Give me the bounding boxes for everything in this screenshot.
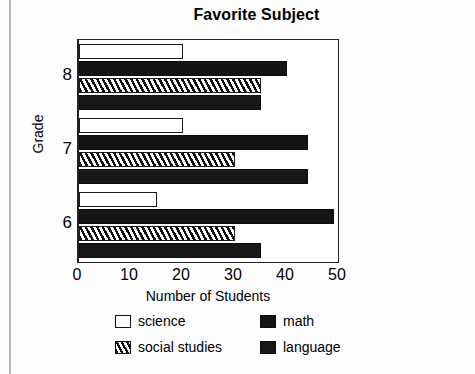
legend-swatch-language-icon — [260, 341, 276, 354]
legend-item-science[interactable]: science — [115, 313, 185, 329]
legend-item-math[interactable]: math — [260, 313, 314, 329]
bar-group-grade-6 — [79, 188, 338, 262]
bar-math-grade-7 — [79, 135, 308, 150]
legend-swatch-math-icon — [260, 315, 276, 328]
legend-item-language[interactable]: language — [260, 339, 341, 355]
bar-group-grade-8 — [79, 40, 338, 114]
bar-language-grade-6 — [79, 243, 261, 258]
legend-label: social studies — [138, 339, 222, 355]
bar-social-studies-grade-7 — [79, 152, 235, 167]
bar-math-grade-6 — [79, 209, 334, 224]
bar-science-grade-6 — [79, 192, 157, 207]
bar-social-studies-grade-6 — [79, 226, 235, 241]
legend-swatch-science-icon — [115, 315, 131, 328]
legend-swatch-social-studies-icon — [115, 341, 131, 354]
y-tick-label-6: 6 — [46, 213, 72, 233]
bar-science-grade-8 — [79, 44, 183, 59]
x-tick-label-50: 50 — [328, 266, 346, 284]
y-tick-label-8: 8 — [46, 65, 72, 85]
y-axis-tick-labels: 678 — [40, 39, 72, 263]
chart-figure: Favorite Subject Grade 678 01020304050 N… — [0, 0, 475, 374]
x-tick-label-40: 40 — [276, 266, 294, 284]
legend-label: math — [283, 313, 314, 329]
plot-area — [77, 39, 339, 263]
bar-group-grade-7 — [79, 114, 338, 188]
legend-label: science — [138, 313, 185, 329]
bar-math-grade-8 — [79, 61, 287, 76]
x-axis-title: Number of Students — [77, 288, 339, 304]
x-tick-label-30: 30 — [224, 266, 242, 284]
bar-language-grade-8 — [79, 95, 261, 110]
chart-legend: sciencemathsocial studieslanguage — [115, 313, 365, 365]
x-tick-label-20: 20 — [172, 266, 190, 284]
bar-social-studies-grade-8 — [79, 78, 261, 93]
x-tick-label-10: 10 — [120, 266, 138, 284]
legend-label: language — [283, 339, 341, 355]
x-axis-tick-labels: 01020304050 — [77, 266, 339, 288]
y-tick-label-7: 7 — [46, 139, 72, 159]
scan-edge-artifact — [9, 0, 11, 374]
legend-item-social-studies[interactable]: social studies — [115, 339, 222, 355]
bar-language-grade-7 — [79, 169, 308, 184]
chart-title: Favorite Subject — [0, 6, 475, 24]
bar-science-grade-7 — [79, 118, 183, 133]
x-tick-label-0: 0 — [73, 266, 82, 284]
